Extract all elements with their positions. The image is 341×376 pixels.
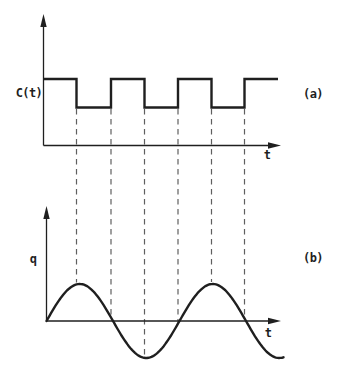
panel-b-y-axis-arrowhead-icon [43,206,49,219]
panel-b-x-axis-label: t [265,326,272,340]
panel-a: C(t) t (a) [16,14,323,162]
panel-b: q t (b) [30,206,323,358]
panel-b-x-axis-arrowhead-icon [268,318,281,324]
panel-b-tag: (b) [303,251,323,265]
panel-a-y-axis-arrowhead-icon [40,14,46,27]
panel-b-y-axis-label: q [30,252,37,266]
figure-canvas: C(t) t (a) q t (b) [0,0,341,376]
waveform-figure: C(t) t (a) q t (b) [0,0,341,376]
panel-a-x-axis-label: t [264,148,271,162]
square-wave-curve [44,79,279,108]
panel-a-tag: (a) [303,87,323,101]
panel-a-y-axis-label: C(t) [16,86,43,100]
